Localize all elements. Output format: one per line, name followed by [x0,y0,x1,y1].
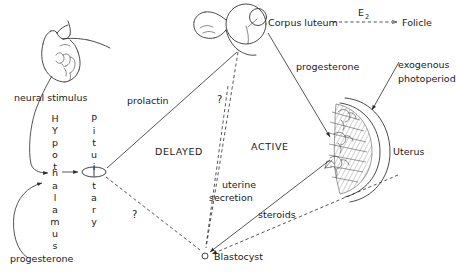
pituitary-char: i [93,161,96,172]
hypothalamus-char: o [52,149,58,160]
label-hypothalamus-vertical: H Y p o t h a l a m u s [50,113,59,251]
label-folicle: Folicle [402,17,432,28]
label-neural-stimulus: neural stimulus [14,92,88,103]
connector-neural-stimulus [30,76,52,173]
label-exogenous: exogenous [398,59,450,70]
hypothalamus-char: l [54,192,57,203]
label-secretion: secretion [209,192,253,203]
label-e2: E [358,7,364,18]
hypothalamus-char: p [52,137,58,148]
label-question-upper: ? [217,94,222,105]
diagram-canvas: Folicle (dashed horizontal) --> neural s… [0,0,456,274]
connector-progesterone-uterus [268,33,330,137]
hypothalamus-char: h [52,167,58,178]
label-uterus: Uterus [393,146,424,157]
connector-exogenous-photoperiod [372,62,399,110]
label-uterine: uterine [222,179,256,190]
connector-progesterone-feedback [14,183,42,258]
label-progesterone-right: progesterone [296,61,359,72]
connector-uterine-secretion [210,160,330,252]
diagram-svg: Folicle (dashed horizontal) --> neural s… [0,0,456,274]
hypothalamus-char: s [53,240,58,251]
ovary-drawing [194,4,267,55]
pituitary-char: u [91,149,97,160]
label-steroids: steroids [258,209,296,220]
pituitary-char: y [91,216,97,227]
label-photoperiod: photoperiod [398,73,456,84]
label-blastocyst: Blastocyst [214,251,263,262]
connector-ovary-blastocyst [206,52,238,248]
pituitary-char: a [91,192,97,203]
hypothalamus-char: a [52,204,58,215]
pituitary-char: r [92,204,96,215]
blastocyst-dot [202,253,208,259]
hypothalamus-char: a [52,180,58,191]
hypothalamus-char: u [52,228,58,239]
label-delayed: DELAYED [155,146,203,157]
pituitary-char: t [92,180,96,191]
label-corpus-luteum: Corpus luteum [268,17,338,28]
hypothalamus-char: Y [51,125,58,136]
label-e2-subscript: 2 [365,13,369,21]
label-question-lower: ? [132,209,137,220]
hypothalamus-char: m [50,216,59,227]
pituitary-char: i [93,125,96,136]
animal-head-drawing [42,21,110,82]
label-prolactin: prolactin [127,95,169,106]
label-active: ACTIVE [251,141,289,152]
divider-delayed-active [206,86,228,246]
pituitary-char: t [92,137,96,148]
connector-pituitary-blastocyst [106,177,200,250]
pituitary-char: P [91,113,97,124]
uterus-drawing [325,98,390,202]
label-progesterone-left: progesterone [10,253,73,264]
hypothalamus-char: H [51,113,58,124]
